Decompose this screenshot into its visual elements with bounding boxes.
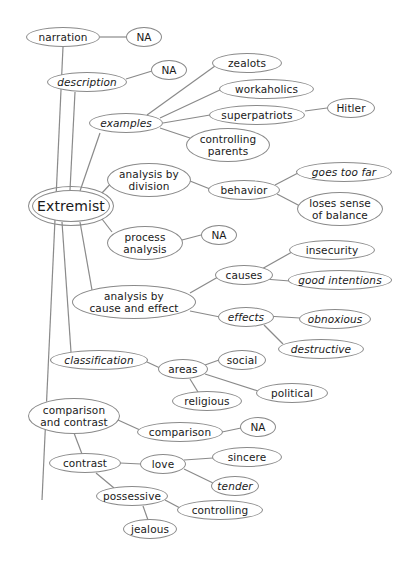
node-process-analysis: process analysis [107, 226, 183, 260]
node-zealots: zealots [212, 53, 282, 73]
connector-line [182, 235, 201, 240]
connector-line [102, 219, 112, 232]
connector-line [190, 311, 220, 317]
connector-line [184, 458, 213, 460]
node-obnoxious: obnoxious [299, 309, 371, 329]
node-examples: examples [89, 113, 163, 133]
connector-line [70, 92, 75, 190]
node-love: love [140, 454, 186, 474]
node-political: political [256, 383, 328, 403]
connector-line [264, 325, 283, 344]
connector-line [118, 420, 140, 430]
connector-line [190, 379, 198, 392]
connector-line [184, 469, 213, 483]
node-areas: areas [158, 359, 208, 379]
node-process-na: NA [201, 225, 237, 245]
node-controlling: controlling [177, 500, 263, 520]
node-narration-na: NA [126, 27, 162, 47]
connector-line [275, 173, 298, 185]
node-insecurity: insecurity [289, 240, 375, 260]
node-description: description [47, 72, 127, 92]
node-comparison-contrast: comparison and contrast [28, 398, 120, 434]
connector-line [190, 181, 210, 189]
connector-line [222, 428, 241, 432]
node-classification: classification [50, 350, 148, 370]
connector-line [126, 71, 152, 79]
connector-line [205, 360, 219, 365]
node-contrast: contrast [49, 453, 121, 473]
connector-line [80, 222, 92, 290]
connector-line [160, 128, 190, 138]
connector-line [62, 222, 71, 352]
node-jealous: jealous [123, 519, 177, 539]
node-cause-effect: analysis by cause and effect [72, 285, 196, 319]
node-good-intentions: good intentions [288, 270, 392, 290]
node-narration: narration [26, 27, 100, 47]
node-goes-too-far: goes too far [296, 162, 392, 182]
node-hitler: Hitler [327, 98, 375, 118]
node-description-na: NA [151, 60, 187, 80]
node-destructive: destructive [278, 339, 364, 359]
connector-line [120, 463, 141, 464]
node-analysis-division: analysis by division [107, 163, 191, 197]
node-effects: effects [218, 307, 274, 327]
node-controlling-parents: controlling parents [186, 128, 270, 162]
node-social: social [218, 350, 266, 370]
connector-line [74, 433, 82, 454]
central-node: Extremist [32, 190, 110, 222]
connector-line [143, 506, 148, 520]
node-behavior: behavior [208, 180, 280, 200]
node-sincere: sincere [212, 447, 282, 467]
node-tender: tender [211, 476, 259, 496]
connector-line [96, 473, 114, 488]
node-causes: causes [215, 265, 273, 285]
connector-line [163, 115, 210, 123]
mind-map-canvas: ExtremistnarrationNAdescriptionNAexample… [0, 0, 414, 566]
node-superpatriots: superpatriots [209, 105, 305, 125]
node-comparison-na: NA [240, 417, 276, 437]
connector-line [80, 133, 100, 191]
connector-line [190, 277, 218, 293]
connector-line [305, 108, 327, 111]
node-comparison: comparison [137, 422, 223, 442]
node-religious: religious [172, 391, 242, 411]
node-workaholics: workaholics [219, 79, 314, 99]
node-loses-balance: loses sense of balance [297, 192, 383, 226]
connector-line [277, 194, 300, 206]
connector-line [205, 374, 258, 391]
node-possessive: possessive [96, 486, 168, 506]
